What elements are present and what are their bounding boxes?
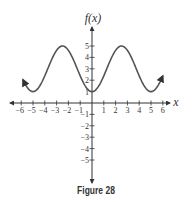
y-tick-label: −5 [80,156,89,165]
x-tick-label: 3 [125,106,129,115]
x-tick-label: −3 [51,106,60,115]
x-tick-label: 1 [102,106,106,115]
x-tick-label: −5 [27,106,36,115]
x-tick-label: 5 [149,106,153,115]
y-tick-label: 5 [85,42,89,51]
y-tick-label: −3 [80,133,89,142]
y-tick-label: −2 [80,122,89,131]
x-tick-label: −4 [39,106,48,115]
y-axis-label: f(x) [85,11,102,25]
x-axis-label: x [172,95,179,109]
x-tick-label: 2 [114,106,118,115]
y-tick-label: 4 [85,53,89,62]
x-tick-label: 4 [137,106,141,115]
graph: −6−5−4−3−2−1123456−5−4−3−2−112345 f(x) x [0,0,192,202]
y-tick-label: −1 [80,110,89,119]
y-tick-label: 3 [85,65,89,74]
y-tick-label: 2 [85,76,89,85]
figure-caption: Figure 28 [14,185,177,196]
y-tick-label: −4 [80,145,89,154]
x-tick-label: −2 [63,106,72,115]
x-tick-label: 6 [161,106,165,115]
x-tick-label: −6 [15,106,24,115]
